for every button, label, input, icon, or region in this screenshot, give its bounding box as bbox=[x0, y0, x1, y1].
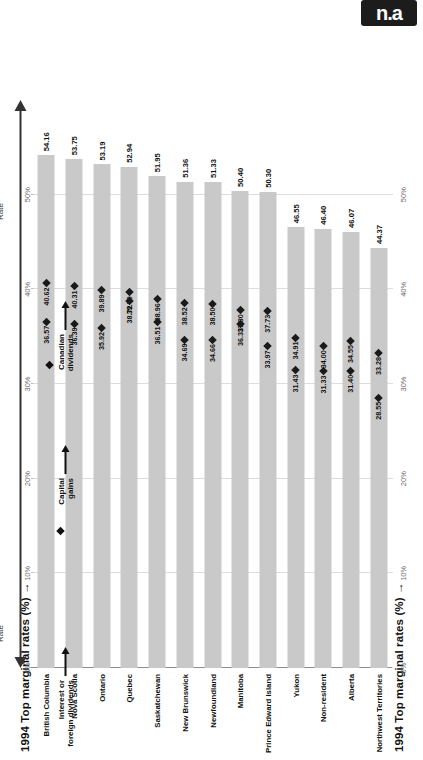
ranking-axis-line bbox=[19, 110, 21, 658]
marker-value-capital-gains: 33.28 bbox=[374, 357, 383, 375]
bar-value-label: 46.07 bbox=[342, 209, 359, 228]
bar-value-label: 50.40 bbox=[231, 168, 248, 187]
tick-label-30-top: 30% bbox=[22, 376, 31, 391]
bar bbox=[148, 176, 165, 668]
highest-rate-caption: HighestTopMarginalRate bbox=[0, 611, 4, 642]
bar bbox=[259, 192, 276, 668]
bar-value-label: 52.94 bbox=[120, 144, 137, 163]
tick-label-50-top: 50% bbox=[22, 187, 31, 202]
marker-value-capital-gains: 34.91 bbox=[291, 342, 300, 360]
marker-value-capital-gains: 37.73 bbox=[263, 315, 272, 333]
marker-value-capital-gains: 40.31 bbox=[69, 290, 78, 308]
bar bbox=[342, 232, 359, 668]
bar bbox=[231, 191, 248, 668]
marker-value-capital-gains: 34.00 bbox=[318, 350, 327, 368]
marker-value-canadian-dividends: 28.55 bbox=[374, 402, 383, 420]
category-label: Yukon bbox=[287, 674, 304, 760]
category-label: Ontario bbox=[93, 674, 110, 760]
bar bbox=[176, 182, 193, 668]
legend-canadian-dividends-arrow-head-icon bbox=[61, 301, 69, 308]
legend-capital-gains-arrow-line bbox=[64, 452, 66, 474]
bar bbox=[287, 227, 304, 668]
tick-label-40-bottom: 40% bbox=[398, 282, 407, 297]
bar-value-label: 44.37 bbox=[370, 225, 387, 244]
legend-interest-foreign-dividends-arrow-head-icon bbox=[61, 647, 69, 654]
tick-label-40-top: 40% bbox=[22, 282, 31, 297]
tick-label-20-bottom: 20% bbox=[398, 471, 407, 486]
bar bbox=[120, 167, 137, 668]
bar-value-label: 51.95 bbox=[148, 153, 165, 172]
bar-value-label: 51.33 bbox=[204, 159, 221, 178]
bar-value-label: 46.40 bbox=[314, 206, 331, 225]
bar-value-label: 50.30 bbox=[259, 169, 276, 188]
marker-value-canadian-dividends: 31.43 bbox=[291, 374, 300, 392]
category-label: Non-resident bbox=[314, 674, 331, 760]
marker-value-canadian-dividends: 36.33 bbox=[235, 328, 244, 346]
marker-value-capital-gains: 34.55 bbox=[346, 345, 355, 363]
marker-value-canadian-dividends: 36.57 bbox=[41, 326, 50, 344]
marker-value-canadian-dividends: 36.51 bbox=[152, 326, 161, 344]
marker-value-capital-gains: 40.62 bbox=[41, 287, 50, 305]
tick-label-50-bottom: 50% bbox=[398, 187, 407, 202]
legend-canadian-dividends-arrow-line bbox=[64, 308, 66, 330]
category-label: Northwest Territories bbox=[370, 674, 387, 760]
marker-value-capital-gains: 39.89 bbox=[97, 294, 106, 312]
category-label: New Brunswick bbox=[176, 674, 193, 760]
marker-value-capital-gains: 38.52 bbox=[180, 307, 189, 325]
ranking-arrow-right-icon bbox=[14, 100, 26, 111]
legend-canadian-dividends-label: Canadiandividends bbox=[56, 334, 74, 408]
chart-page: n.a 1994 Top marginal rates (%) → 1994 T… bbox=[0, 0, 423, 760]
category-label: Quebec bbox=[120, 674, 137, 760]
legend-capital-gains-arrow-head-icon bbox=[61, 445, 69, 452]
marker-value-canadian-dividends: 35.92 bbox=[97, 332, 106, 350]
bar bbox=[204, 182, 221, 668]
tick-label-20-top: 20% bbox=[22, 471, 31, 486]
marker-value-canadian-dividends: 34.66 bbox=[208, 344, 217, 362]
bar bbox=[93, 164, 110, 668]
category-label: Newfoundland bbox=[204, 674, 221, 760]
tick-label-0-top: 0% bbox=[22, 663, 31, 674]
bar bbox=[370, 248, 387, 668]
category-label: Saskatchewan bbox=[148, 674, 165, 760]
category-label: Manitoba bbox=[231, 674, 248, 760]
lowest-rate-caption: LowestTopMarginalRate bbox=[0, 189, 4, 220]
category-label: Prince Edward Island bbox=[259, 674, 276, 760]
bar bbox=[37, 155, 54, 668]
marker-value-canadian-dividends: 38.72 bbox=[124, 305, 133, 323]
category-label: Alberta bbox=[342, 674, 359, 760]
chart-stage: 1994 Top marginal rates (%) → 1994 Top m… bbox=[0, 0, 423, 760]
category-label: British Columbia bbox=[37, 674, 54, 760]
tick-label-10-top: 10% bbox=[22, 566, 31, 581]
marker-value-canadian-dividends: 34.69 bbox=[180, 344, 189, 362]
bar-value-label: 46.55 bbox=[287, 204, 304, 223]
marker-value-capital-gains: 38.50 bbox=[208, 308, 217, 326]
legend-interest-foreign-dividends-arrow-line bbox=[64, 654, 66, 676]
marker-value-canadian-dividends: 31.33 bbox=[318, 375, 327, 393]
tick-label-0-bottom: 0% bbox=[398, 663, 407, 674]
marker-value-canadian-dividends: 31.40 bbox=[346, 375, 355, 393]
marker-value-canadian-dividends: 33.97 bbox=[263, 350, 272, 368]
tick-label-10-bottom: 10% bbox=[398, 566, 407, 581]
bar-value-label: 53.75 bbox=[65, 136, 82, 155]
bar-value-label: 54.16 bbox=[37, 132, 54, 151]
bar bbox=[65, 159, 82, 668]
bar-value-label: 51.36 bbox=[176, 159, 193, 178]
bar bbox=[314, 229, 331, 668]
tick-label-30-bottom: 30% bbox=[398, 376, 407, 391]
legend-interest-foreign-dividends-label: Interest orforeign dividends bbox=[56, 680, 74, 760]
bar-value-label: 53.19 bbox=[93, 141, 110, 160]
